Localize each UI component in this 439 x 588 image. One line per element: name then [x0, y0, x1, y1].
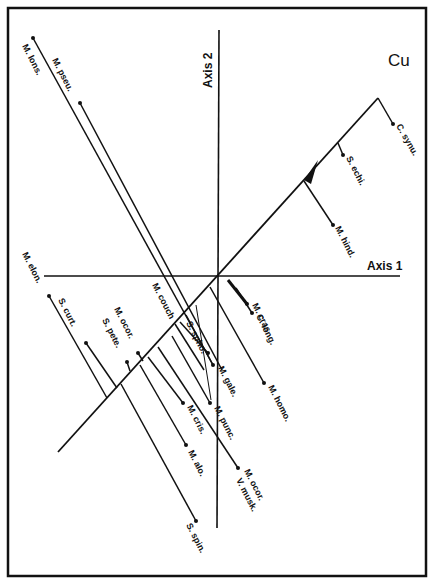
label-s-curt: S. curt.: [56, 296, 79, 328]
label-m-cris: M. cris.: [185, 403, 208, 435]
label-m-couch: M. couch: [150, 281, 177, 320]
proj-m-hind: [304, 181, 333, 225]
proj-c-long: [236, 288, 252, 313]
label-m-hind: M. hind.: [333, 224, 357, 259]
label-m-homo: M. homo.: [266, 383, 293, 423]
proj-m-cris: [148, 357, 183, 403]
proj-m-pseu: [80, 103, 222, 370]
label-m-gale: M. gale.: [216, 364, 240, 398]
label-s-echi: S. echi.: [344, 154, 367, 187]
label-c-synu: C. synu.: [394, 122, 420, 157]
proj-s-spin: [121, 384, 196, 521]
axis-1-label: Axis 1: [367, 259, 403, 273]
biplot-figure: Cu Axis 1 Axis 2 M. lons. M. pseu. C. sy…: [0, 0, 439, 588]
proj-m-elon-line: [49, 296, 107, 398]
label-m-alo: M. alo.: [186, 448, 208, 478]
axis-2-line: [217, 30, 219, 528]
label-s-spin: S. spin.: [184, 521, 207, 554]
label-m-elon: M. elon.: [20, 250, 44, 284]
proj-s-curt: [86, 343, 117, 388]
panel-label: Cu: [388, 51, 410, 70]
label-m-lons: M. lons.: [20, 42, 44, 76]
proj-c-synu: [378, 98, 393, 124]
axis-2-label: Axis 2: [201, 52, 215, 88]
gradient-arrow-icon: [304, 160, 318, 184]
label-c-long: C. long.: [254, 312, 278, 346]
